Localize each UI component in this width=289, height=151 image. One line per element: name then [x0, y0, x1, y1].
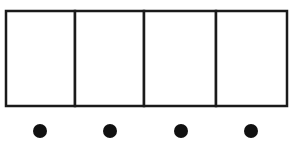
- cells-and-dots-diagram: [0, 0, 289, 151]
- dot-4: [244, 124, 258, 138]
- dot-1: [33, 124, 47, 138]
- cell-4: [216, 11, 287, 106]
- cell-1: [6, 11, 75, 106]
- dot-2: [103, 124, 117, 138]
- dot-row: [33, 124, 258, 138]
- dot-3: [174, 124, 188, 138]
- cell-row: [6, 11, 287, 106]
- cell-3: [144, 11, 216, 106]
- cell-2: [75, 11, 144, 106]
